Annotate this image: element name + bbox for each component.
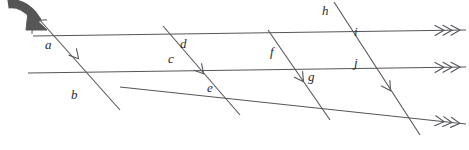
line-top-stroke xyxy=(33,30,466,36)
curved-arrow-pointer xyxy=(8,4,47,30)
arrowhead-chevron xyxy=(381,81,394,94)
transversal-1 xyxy=(38,18,120,110)
angle-label-b: b xyxy=(71,88,78,101)
transversal-4-chevron-icon xyxy=(381,81,394,94)
line-middle xyxy=(28,62,466,73)
angle-label-a: a xyxy=(45,38,52,51)
line-top xyxy=(33,25,466,36)
geometry-diagram: abcdefghij xyxy=(0,0,469,150)
transversal-1-stroke xyxy=(38,18,120,110)
line-middle-stroke xyxy=(28,67,466,73)
angle-label-h: h xyxy=(322,4,329,17)
line-bottom xyxy=(120,87,466,128)
angle-label-g: g xyxy=(308,70,315,83)
angle-label-e: e xyxy=(207,81,213,94)
angle-label-j: j xyxy=(354,56,358,69)
angle-label-i: i xyxy=(354,25,358,38)
parallel-lines-group xyxy=(28,25,466,128)
line-bottom-stroke xyxy=(120,87,466,124)
angle-label-c: c xyxy=(168,52,174,65)
angle-label-f: f xyxy=(270,45,274,58)
angle-label-d: d xyxy=(180,37,187,50)
diagram-canvas xyxy=(0,0,469,150)
